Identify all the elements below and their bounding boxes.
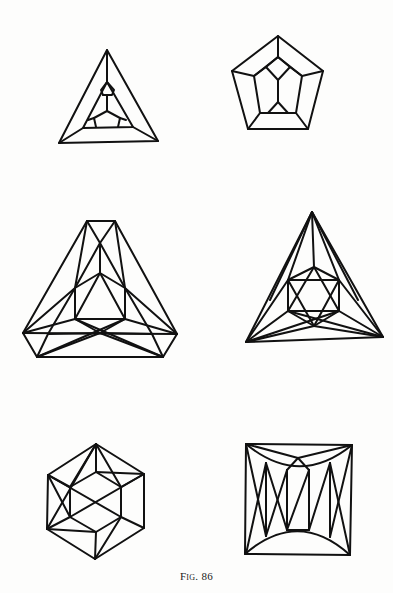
- figure-86-drawings: [0, 0, 393, 593]
- panel-6-square: [245, 444, 352, 555]
- figure-page: Fig. 86: [0, 0, 393, 593]
- panel-5-hexagon: [47, 444, 144, 559]
- figure-caption: Fig. 86: [0, 570, 393, 582]
- panel-2-pentagon: [232, 36, 323, 129]
- panel-4-triangle-hexagram: [246, 212, 383, 342]
- panel-1-triangle: [59, 50, 158, 143]
- panel-3-truncated-triangle: [23, 221, 177, 357]
